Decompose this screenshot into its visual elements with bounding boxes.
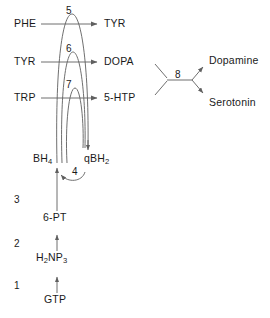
enzyme-number-5: 5 [66,5,72,16]
intermediate-label-h2np3: H2NP3 [36,251,67,265]
precursor-label-gtp: GTP [44,293,66,305]
enzyme-number-4: 4 [72,166,78,177]
step8-lower-left-branch [155,81,167,95]
h2np3-part2: NP [48,251,63,263]
enzyme-number-6: 6 [66,43,72,54]
enzyme-number-3: 3 [14,194,20,205]
qbh2-subscript: 2 [105,157,109,166]
intermediate-label-6pt: 6-PT [43,211,67,223]
substrate-label-tyr: TYR [14,55,36,67]
bh4-subscript: 4 [48,157,52,166]
product-label-dopamine: Dopamine [209,54,258,66]
product-label-5htp: 5-HTP [104,91,135,103]
enzyme-number-8: 8 [175,69,181,80]
pathway-diagram: PHE TYR 5 TYR DOPA 6 TRP 5-HTP 7 BH4 qBH… [0,0,270,318]
bh4-base: BH [33,152,48,164]
cofactor-arch-7 [66,88,83,163]
step8-arrow-serotonin [192,80,203,93]
enzyme-number-7: 7 [66,79,72,90]
step8-arrow-dopamine [192,67,203,80]
h2np3-part1: H [36,251,44,263]
cofactor-label-qbh2: qBH2 [84,152,109,166]
cofactor-label-bh4: BH4 [33,152,52,166]
product-label-serotonin: Serotonin [209,96,256,108]
h2np3-sub2: 3 [63,256,67,265]
product-label-tyr: TYR [104,17,126,29]
substrate-label-trp: TRP [14,91,36,103]
step8-upper-left-branch [155,64,167,78]
enzyme-number-1: 1 [14,280,20,291]
qbh2-base: qBH [84,152,105,164]
enzyme-number-2: 2 [14,238,20,249]
substrate-label-phe: PHE [14,17,36,29]
product-label-dopa: DOPA [104,55,134,67]
